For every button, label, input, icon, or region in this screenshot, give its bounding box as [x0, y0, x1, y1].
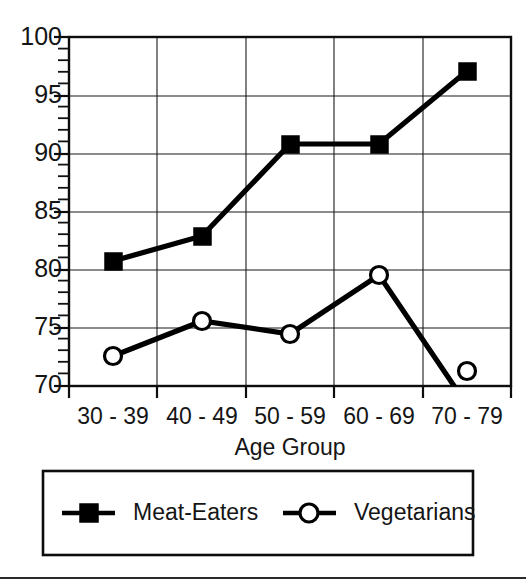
data-point-marker: [282, 326, 299, 343]
y-tick-label: 95: [34, 80, 62, 108]
legend-item-vegetarians[interactable]: Vegetarians: [283, 499, 475, 525]
y-tick-label: 80: [34, 254, 62, 282]
data-point-marker: [459, 63, 476, 80]
x-tick-label: 40 - 49: [166, 403, 238, 429]
data-point-marker: [105, 253, 122, 270]
data-point-marker: [459, 363, 476, 380]
legend-label-vegetarians: Vegetarians: [354, 499, 475, 525]
y-tick-label: 85: [34, 196, 62, 224]
legend-marker-filled-square: [80, 504, 98, 522]
legend-marker-open-circle: [300, 504, 318, 522]
data-point-marker: [282, 136, 299, 153]
x-tick-label: 70 - 79: [431, 403, 503, 429]
x-tick-label: 30 - 39: [77, 403, 149, 429]
data-point-marker: [105, 348, 122, 365]
chart-figure: 100 95 90 85 80 75 70: [0, 0, 526, 581]
data-point-marker: [371, 136, 388, 153]
y-tick-label: 75: [34, 312, 62, 340]
data-point-marker: [194, 228, 211, 245]
x-axis-tick-labels: 30 - 39 40 - 49 50 - 59 60 - 69 70 - 79: [77, 403, 503, 429]
y-tick-label: 100: [20, 22, 62, 50]
x-axis-title: Age Group: [234, 434, 345, 460]
y-tick-label: 70: [34, 370, 62, 398]
y-tick-label: 90: [34, 138, 62, 166]
chart-legend: Meat-Eaters Vegetarians: [43, 471, 475, 555]
legend-label-meat-eaters: Meat-Eaters: [133, 499, 258, 525]
data-point-marker: [194, 313, 211, 330]
data-point-marker: [371, 267, 388, 284]
x-tick-label: 60 - 69: [343, 403, 415, 429]
x-tick-label: 50 - 59: [254, 403, 326, 429]
